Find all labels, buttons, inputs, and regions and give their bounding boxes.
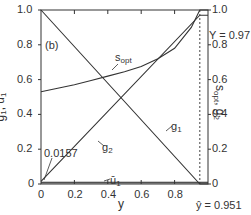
yticksL-label: 0.2 [17,143,32,154]
left-axis-label-sep: , ū [0,97,7,110]
right-axis-label-sep: , g [213,102,227,115]
right-axis-label-sub1: opt [212,91,221,102]
x-axis-label: y [118,199,124,210]
g1-label-sub: 1 [177,125,181,134]
yticksR-label: 0 [212,178,218,189]
yticksL-label: 0 [28,178,34,189]
g2-start-annotation: 0.0157 [44,148,78,159]
yticksR-label: 0.2 [212,143,227,154]
left-axis-label-sub1: 1 [0,110,8,114]
right-axis-label-sub2: 2 [212,115,221,119]
right-axis-label: sopt, g2 [211,85,225,120]
curve-sopt [41,10,208,92]
g2-label: g2 [102,142,113,156]
left-axis-label-sub2: 1 [0,93,8,97]
Y-value-annotation: Y = 0.97 [209,30,250,41]
annotation-arrow [44,158,52,180]
g1-label: g1 [171,121,182,135]
g2-label-sub: 2 [108,146,112,155]
left-axis-label-main: g [0,115,7,122]
xticks-label: 0.6 [134,189,149,200]
xticks-label: 0.8 [168,189,183,200]
u1-label: ū1 [110,175,121,189]
panel-label: (b) [45,40,58,51]
yticksR-label: 1.0 [212,4,227,15]
xticks-label: 0.2 [67,189,82,200]
s-opt-label: sopt [115,52,132,66]
u1-label-sub: 1 [116,179,120,188]
yticksL-label: 0.8 [17,39,32,50]
yticksL-label: 1.0 [17,4,32,15]
left-axis-label: g1, ū1 [0,93,9,122]
xticks-label: 0 [38,189,44,200]
s-opt-label-sub: opt [121,56,132,65]
yhat-value-annotation: ŷ = 0.951 [196,200,242,211]
yticksL-label: 0.6 [17,74,32,85]
yticksR-label: 0.6 [212,74,227,85]
yticksL-label: 0.4 [17,108,32,119]
annotation-arrows [44,64,172,181]
xticks-label: 0.4 [101,189,116,200]
